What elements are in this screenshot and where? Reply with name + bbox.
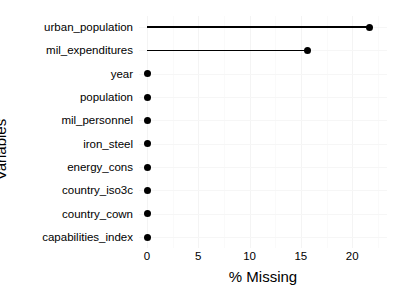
y-axis-tick-label: year [111, 67, 133, 81]
data-point-marker [144, 164, 151, 171]
gridline-major-horizontal [139, 74, 387, 75]
y-axis-tick-label: country_cown [62, 207, 133, 221]
data-point-marker [144, 210, 151, 217]
plot-panel [139, 16, 387, 248]
gridline-major-horizontal [139, 237, 387, 238]
y-axis-tick-label: iron_steel [83, 137, 133, 151]
data-point-marker [144, 140, 151, 147]
y-axis-tick-label: urban_population [44, 20, 133, 34]
lollipop-segment [147, 26, 370, 28]
data-point-marker [304, 47, 311, 54]
x-axis-tick-label: 10 [243, 249, 256, 263]
y-axis-tick-label: mil_personnel [61, 113, 133, 127]
y-axis-tick-label: capabilities_index [42, 230, 133, 244]
x-axis-title: % Missing [139, 268, 387, 285]
x-axis-tick-label: 15 [294, 249, 307, 263]
gridline-major-horizontal [139, 214, 387, 215]
gridline-major-horizontal [139, 97, 387, 98]
data-point-marker [144, 94, 151, 101]
y-axis-tick-label: country_iso3c [62, 183, 133, 197]
x-axis-tick-label: 5 [195, 249, 201, 263]
x-axis-tick-labels: 05101520 [139, 249, 387, 265]
y-axis-tick-label: mil_expenditures [46, 43, 133, 57]
data-point-marker [144, 70, 151, 77]
gridline-major-horizontal [139, 120, 387, 121]
y-axis-tick-label: energy_cons [67, 160, 133, 174]
y-axis-tick-label: population [80, 90, 133, 104]
data-point-marker [144, 187, 151, 194]
gridline-major-horizontal [139, 144, 387, 145]
data-point-marker [144, 117, 151, 124]
data-point-marker [144, 234, 151, 241]
missingness-chart-figure: Variables urban_populationmil_expenditur… [0, 0, 395, 299]
x-axis-tick-label: 0 [144, 249, 150, 263]
y-axis-tick-labels: urban_populationmil_expendituresyearpopu… [22, 16, 139, 248]
gridline-major-horizontal [139, 190, 387, 191]
lollipop-segment [147, 50, 307, 52]
gridline-major-horizontal [139, 167, 387, 168]
data-point-marker [366, 24, 373, 31]
x-axis-tick-label: 20 [346, 249, 359, 263]
